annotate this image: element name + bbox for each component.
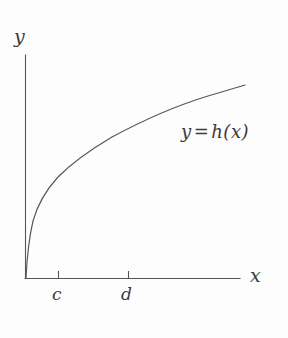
y-axis-label: y [14, 27, 25, 46]
equation-lhs: y [181, 121, 192, 142]
x-axis-label: x [250, 266, 261, 285]
equation-equals-sign: = [192, 121, 212, 142]
x-tick-label-c: c [52, 286, 62, 303]
figure-container: y x c d y=h(x) [0, 0, 288, 338]
equation-rhs: h(x) [211, 121, 249, 142]
axes-group [25, 55, 240, 279]
x-axis-ticks-group [59, 271, 129, 279]
function-curve-h [26, 85, 245, 278]
x-tick-label-d: d [121, 286, 132, 303]
caption-artifact [96, 303, 192, 314]
curve-equation-label: y=h(x) [181, 123, 249, 141]
plot-canvas [0, 0, 288, 338]
function-curve-group [26, 85, 245, 278]
